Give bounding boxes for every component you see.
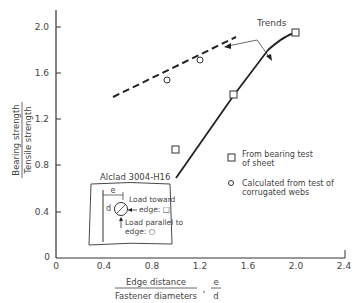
legend: From bearing test of sheet Calculated fr…: [228, 150, 334, 197]
x-label-denominator: Fastener diameters: [115, 291, 198, 301]
x-label-numerator: Edge distance: [126, 277, 186, 287]
inset-load-parallel: Load parallel to: [125, 218, 184, 227]
legend-circle-icon: [229, 181, 234, 186]
inset-load-toward: Load toward: [129, 195, 176, 204]
trends-annotation: Trends: [224, 18, 287, 61]
y-tick-label: 1.2: [35, 114, 49, 124]
inset-load-parallel-edge: edge: ○: [125, 227, 156, 236]
data-point-circle: [197, 57, 203, 63]
series-bearing-markers: [172, 29, 299, 153]
x-tick-label: 1.6: [241, 261, 256, 271]
chart: 2.0 1.6 1.2 0.8 0.4 0 0 0.4 0.8 1.2 1.6 …: [0, 0, 359, 303]
x-label-comma: ,: [203, 284, 206, 294]
y-label-numerator: Bearing strength: [11, 104, 21, 175]
inset-d-label: d: [106, 204, 111, 213]
x-ticks: 0 0.4 0.8 1.2 1.6 2.0 2.4: [53, 261, 351, 271]
x-tick-label: 1.2: [193, 261, 207, 271]
trend-line-calculated: [113, 37, 236, 97]
y-tick-label: 0: [44, 252, 50, 262]
data-point-square: [292, 29, 299, 36]
trends-label: Trends: [256, 18, 287, 28]
inset-e-label: e: [111, 186, 116, 195]
x-tick-label: 2.4: [337, 261, 352, 271]
legend-label: Calculated from test of: [242, 179, 334, 188]
legend-label: From bearing test: [242, 150, 313, 159]
x-tick-label: 0: [53, 261, 59, 271]
y-tick-label: 1.6: [35, 68, 50, 78]
x-tick-label: 2.0: [289, 261, 304, 271]
legend-square-icon: [228, 154, 235, 161]
x-label-symbol-den: d: [213, 291, 218, 301]
x-label-symbol-num: e: [213, 277, 218, 287]
inset-diagram: Alclad 3004-H16 e d Load toward edge: □ …: [89, 172, 184, 245]
x-tick-label: 0.4: [97, 261, 112, 271]
series-calculated-markers: [164, 57, 203, 83]
legend-label: corrugated webs: [242, 188, 309, 197]
y-tick-label: 0.4: [35, 207, 50, 217]
data-point-square: [172, 146, 179, 153]
y-ticks: 2.0 1.6 1.2 0.8 0.4 0: [35, 22, 61, 262]
x-axis-label: Edge distance Fastener diameters , e d: [115, 277, 221, 301]
inset-load-toward-edge: edge: □: [139, 205, 170, 214]
y-tick-label: 0.8: [35, 160, 50, 170]
y-tick-label: 2.0: [35, 22, 50, 32]
data-point-square: [230, 91, 237, 98]
inset-title: Alclad 3004-H16: [100, 172, 170, 182]
y-axis-label: Bearing strength Tensile strength: [11, 102, 33, 178]
legend-label: of sheet: [242, 159, 274, 168]
data-point-circle: [164, 77, 170, 83]
y-label-denominator: Tensile strength: [23, 106, 33, 174]
x-tick-label: 0.8: [145, 261, 160, 271]
